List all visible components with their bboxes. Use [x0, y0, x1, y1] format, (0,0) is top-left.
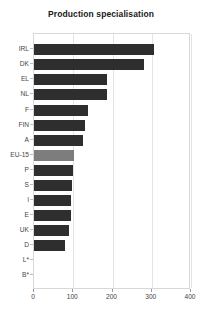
bar-row [34, 268, 191, 283]
x-tick-300 [151, 289, 152, 292]
bar-row [34, 42, 191, 57]
bar-e [34, 210, 71, 221]
bar-i [34, 195, 71, 206]
y-label-d: D [0, 237, 29, 252]
bar-fin [34, 120, 85, 131]
bar-row [34, 193, 191, 208]
y-label-s: S [0, 177, 29, 192]
y-label-nl: NL [0, 86, 29, 101]
bar-eu15 [34, 150, 74, 161]
y-label-i: I [0, 192, 29, 207]
gridline-400 [191, 34, 192, 288]
bar-nl [34, 89, 107, 100]
y-label-e: E [0, 207, 29, 222]
chart-figure: Production specialisation IRLDKELNLFFINA… [0, 0, 202, 323]
bar-row [34, 148, 191, 163]
x-tick-label-0: 0 [31, 293, 35, 300]
bar-row [34, 57, 191, 72]
bar-row [34, 133, 191, 148]
bar-dk [34, 59, 144, 70]
y-label-p: P [0, 162, 29, 177]
x-axis: 0100200300400 [33, 289, 190, 309]
bar-row [34, 87, 191, 102]
bar-irl [34, 44, 154, 55]
y-label-irl: IRL [0, 41, 29, 56]
y-label-uk: UK [0, 222, 29, 237]
chart-title: Production specialisation [0, 9, 202, 19]
bar-row [34, 208, 191, 223]
bar-row [34, 103, 191, 118]
bar-row [34, 163, 191, 178]
bar-row [34, 118, 191, 133]
x-tick-label-100: 100 [67, 293, 78, 300]
bar-row [34, 178, 191, 193]
y-label-f: F [0, 102, 29, 117]
y-label-a: A [0, 132, 29, 147]
bar-uk [34, 225, 69, 236]
bar-series [34, 34, 189, 288]
y-label-el: EL [0, 71, 29, 86]
x-tick-0 [33, 289, 34, 292]
y-label-fin: FIN [0, 117, 29, 132]
bar-d [34, 240, 65, 251]
plot-area [33, 33, 190, 289]
bar-row [34, 253, 191, 268]
x-tick-200 [112, 289, 113, 292]
x-tick-label-400: 400 [184, 293, 195, 300]
bar-row [34, 72, 191, 87]
bar-a [34, 135, 83, 146]
bar-row [34, 223, 191, 238]
x-tick-label-200: 200 [106, 293, 117, 300]
x-tick-label-300: 300 [145, 293, 156, 300]
x-tick-400 [190, 289, 191, 292]
bar-p [34, 165, 73, 176]
y-label-b: B* [0, 267, 29, 282]
bar-row [34, 238, 191, 253]
x-tick-100 [72, 289, 73, 292]
y-label-dk: DK [0, 56, 29, 71]
bar-s [34, 180, 72, 191]
y-axis-category-labels: IRLDKELNLFFINAEU-15PSIEUKDL*B* [0, 33, 31, 289]
bar-el [34, 74, 107, 85]
bar-f [34, 105, 88, 116]
y-label-eu15: EU-15 [0, 147, 29, 162]
y-label-l: L* [0, 252, 29, 267]
